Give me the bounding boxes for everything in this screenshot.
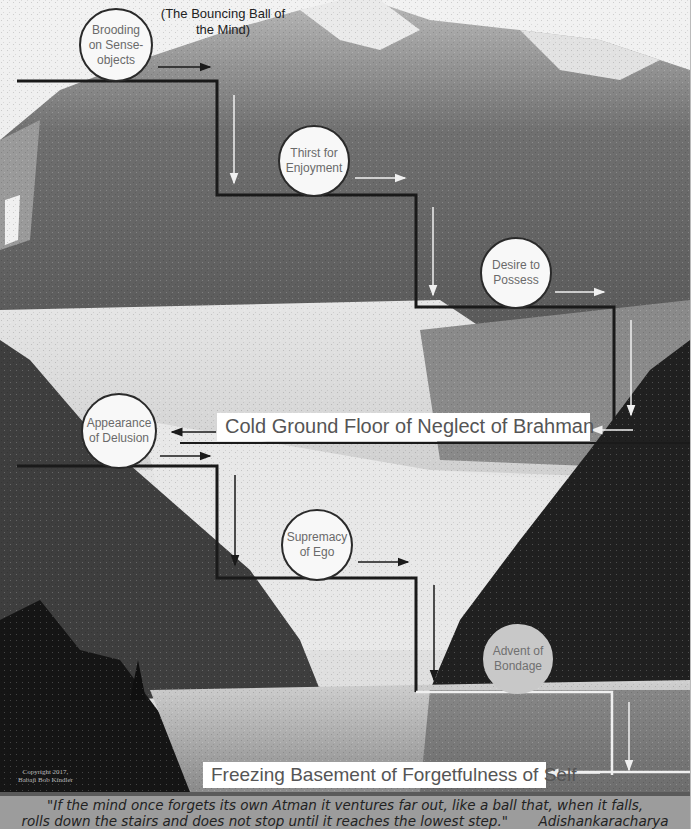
- ball-label-line: Brooding: [89, 23, 144, 38]
- ball-appearance-of-delusion: Appearance of Delusion: [81, 393, 157, 469]
- ball-label-line: Enjoyment: [286, 161, 343, 176]
- diagram-subtitle: (The Bouncing Ball of the Mind): [153, 6, 293, 38]
- quote-line-2-row: rolls down the stairs and does not stop …: [0, 813, 690, 829]
- copyright-line: Babaji Bob Kindler: [18, 776, 73, 784]
- ball-advent-of-bondage: Advent of Bondage: [483, 624, 553, 694]
- quote-line-2: rolls down the stairs and does not stop …: [22, 813, 508, 829]
- ball-label-line: of Delusion: [87, 431, 152, 446]
- ball-label-line: Advent of: [493, 644, 544, 659]
- copyright-notice: Copyright 2017, Babaji Bob Kindler: [18, 768, 73, 784]
- ball-label-line: Thirst for: [286, 146, 343, 161]
- ball-label-line: objects: [89, 53, 144, 68]
- ball-label-line: Bondage: [493, 659, 544, 674]
- ball-label-line: on Sense-: [89, 38, 144, 53]
- ball-label-line: of Ego: [287, 545, 348, 560]
- quote: "If the mind once forgets its own Atman …: [0, 797, 690, 829]
- quote-attribution: Adishankaracharya: [539, 813, 669, 829]
- quote-line-1: "If the mind once forgets its own Atman …: [0, 797, 690, 813]
- ball-thirst-for-enjoyment: Thirst for Enjoyment: [278, 125, 350, 197]
- copyright-line: Copyright 2017,: [18, 768, 73, 776]
- ball-label-line: Desire to: [492, 258, 540, 273]
- ground-floor-label: Cold Ground Floor of Neglect of Brahman: [217, 413, 590, 441]
- ball-label-line: Possess: [492, 273, 540, 288]
- ball-label-line: Supremacy: [287, 530, 348, 545]
- ball-supremacy-of-ego: Supremacy of Ego: [281, 509, 353, 581]
- ball-brooding-on-sense-objects: Brooding on Sense- objects: [79, 8, 153, 82]
- quote-band: "If the mind once forgets its own Atman …: [0, 792, 690, 829]
- lower-staircase: [17, 466, 416, 692]
- page-border: [690, 0, 695, 829]
- ball-desire-to-possess: Desire to Possess: [480, 237, 552, 309]
- basement-label: Freezing Basement of Forgetfulness of Se…: [203, 762, 546, 788]
- bouncing-ball-diagram: (The Bouncing Ball of the Mind) Brooding…: [0, 0, 695, 829]
- ball-label-line: Appearance: [87, 416, 152, 431]
